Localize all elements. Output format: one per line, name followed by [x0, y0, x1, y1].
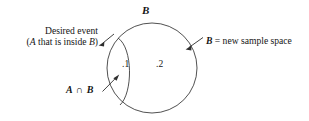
- label-desired-middle-text: that is inside: [36, 36, 89, 47]
- arc-a-shape: [118, 38, 130, 105]
- label-new-sample-space: B = new sample space: [206, 36, 292, 47]
- label-desired-event-line2: (A that is inside B): [8, 37, 98, 48]
- diagram-canvas: [0, 0, 309, 121]
- circle-b-shape: [107, 23, 197, 113]
- desired-event-leader: [99, 34, 114, 47]
- label-set-b-top: B: [142, 4, 149, 16]
- label-new-sample-space-text: = new sample space: [212, 35, 291, 46]
- label-desired-paren-close: ): [95, 36, 98, 47]
- label-desired-event: Desired event (A that is inside B): [8, 26, 98, 47]
- new-sample-space-leader: [186, 38, 203, 51]
- intersection-leader: [103, 75, 120, 92]
- venn-diagram-figure: B Desired event (A that is inside B) B =…: [0, 0, 309, 121]
- label-region-rest-value: .2: [156, 59, 163, 70]
- label-desired-event-line1: Desired event: [45, 25, 98, 36]
- label-intersection: A ∩ B: [66, 84, 94, 95]
- label-region-lens-value: .1: [122, 59, 129, 70]
